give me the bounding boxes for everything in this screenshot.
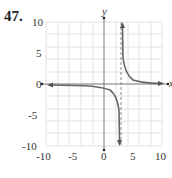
svg-text:10: 10: [32, 16, 44, 28]
x-axis-label: x: [168, 77, 172, 89]
svg-text:5: 5: [130, 150, 136, 162]
svg-text:-10: -10: [36, 150, 51, 162]
x-tick-labels: -10 -5 0 5 10: [36, 150, 167, 162]
svg-text:0: 0: [36, 78, 42, 90]
svg-text:-10: -10: [22, 140, 37, 152]
y-axis-label: y: [101, 5, 107, 17]
axes: [42, 18, 168, 150]
svg-text:5: 5: [36, 47, 42, 59]
y-tick-labels: 10 5 0 -5 -10: [22, 16, 44, 152]
svg-text:10: 10: [155, 150, 167, 162]
svg-text:-5: -5: [68, 150, 78, 162]
graph: y x 10 5 0 -5 -10 -10 -5 0 5 10: [0, 0, 172, 178]
svg-text:-5: -5: [28, 109, 38, 121]
svg-text:0: 0: [101, 150, 107, 162]
